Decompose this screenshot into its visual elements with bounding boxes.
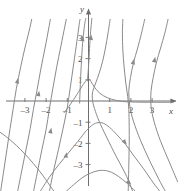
y-tick-label: –1	[73, 118, 83, 128]
direction-arrowhead	[122, 139, 129, 146]
x-tick-label: 1	[107, 105, 112, 115]
y-tick-label: –2	[73, 139, 83, 149]
x-tick-label: –3	[19, 105, 30, 115]
direction-arrowhead	[15, 78, 20, 84]
direction-arrowheads	[15, 34, 158, 186]
y-axis-label: y	[79, 4, 84, 14]
slope-field-figure: –3–2–1123–3–2–1123 x y	[0, 0, 186, 191]
plot-canvas: –3–2–1123–3–2–1123 x y	[0, 0, 186, 191]
solution-curve	[40, 122, 161, 191]
direction-arrowhead	[131, 58, 137, 64]
solution-curve	[129, 19, 166, 191]
direction-arrowhead	[48, 127, 53, 133]
solution-curve	[92, 19, 133, 191]
solution-curve	[122, 19, 129, 191]
x-axis-label: x	[168, 106, 173, 116]
solution-curve	[151, 19, 178, 181]
y-tick-label: –3	[73, 160, 84, 170]
solution-curve	[33, 19, 66, 191]
